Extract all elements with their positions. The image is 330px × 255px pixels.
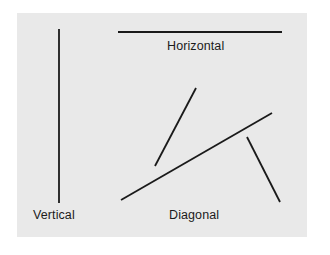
diagram-panel	[17, 13, 307, 237]
horizontal-label: Horizontal	[167, 40, 224, 53]
figure-canvas: Vertical Horizontal Diagonal	[0, 0, 330, 255]
diagonal-label: Diagonal	[169, 209, 219, 222]
vertical-label: Vertical	[33, 209, 75, 222]
